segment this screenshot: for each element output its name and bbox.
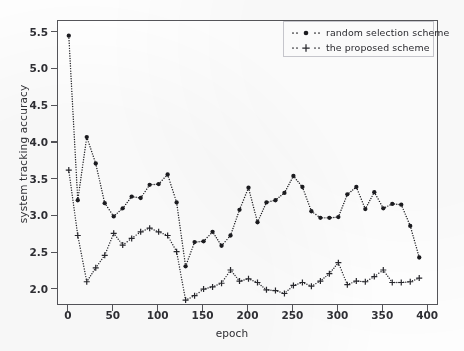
line-dot	[330, 271, 331, 272]
line-dot	[191, 249, 192, 250]
line-dot	[225, 276, 226, 277]
line-dot	[345, 279, 346, 280]
data-point-marker	[183, 297, 189, 303]
data-point-marker	[372, 190, 376, 194]
data-point-marker	[183, 264, 187, 268]
line-dot	[341, 269, 342, 270]
line-dot	[79, 184, 80, 185]
line-dot	[367, 204, 368, 205]
line-dot	[93, 158, 94, 159]
line-dot	[73, 121, 74, 122]
line-dot	[169, 181, 170, 182]
line-dot	[181, 240, 182, 241]
line-dot	[217, 239, 218, 240]
line-dot	[396, 282, 397, 283]
line-dot	[306, 198, 307, 199]
data-point-marker	[66, 167, 72, 173]
line-dot	[153, 229, 154, 230]
line-dot	[414, 240, 415, 241]
line-dot	[70, 187, 71, 188]
line-dot	[236, 277, 237, 278]
line-dot	[306, 284, 307, 285]
line-dot	[71, 192, 72, 193]
legend-label: random selection scheme	[323, 27, 449, 38]
line-dot	[226, 239, 227, 240]
data-point-marker	[416, 275, 422, 281]
line-dot	[74, 146, 75, 147]
data-point-marker	[327, 216, 331, 220]
line-dot	[287, 186, 288, 187]
line-dot	[262, 211, 263, 212]
data-point-marker	[345, 192, 349, 196]
line-dot	[178, 264, 179, 265]
data-point-marker	[165, 232, 171, 238]
data-point-marker	[156, 182, 160, 186]
line-dot	[415, 245, 416, 246]
line-dot	[297, 181, 298, 182]
line-dot	[71, 83, 72, 84]
line-dot	[71, 96, 72, 97]
line-dot	[208, 235, 209, 236]
line-dot	[287, 290, 288, 291]
line-dot	[129, 239, 130, 240]
line-dot	[262, 286, 263, 287]
data-point-marker	[130, 194, 134, 198]
line-dot	[77, 192, 78, 193]
line-dot	[75, 159, 76, 160]
line-dot	[305, 196, 306, 197]
line-dot	[182, 284, 183, 285]
line-dot	[85, 146, 86, 147]
y-tick-label: 5.5	[0, 26, 57, 38]
line-dot	[82, 258, 83, 259]
line-dot	[206, 237, 207, 238]
line-dot	[100, 185, 101, 186]
line-dot	[92, 271, 93, 272]
line-dot	[188, 256, 189, 257]
line-dot	[327, 274, 328, 275]
line-dot	[313, 284, 314, 285]
line-dot	[80, 248, 81, 249]
line-dot	[70, 75, 71, 76]
line-dot	[144, 229, 145, 230]
data-point-marker	[237, 208, 241, 212]
line-dot	[169, 179, 170, 180]
y-tick-mark	[51, 178, 57, 179]
line-dot	[171, 186, 172, 187]
line-dot	[82, 164, 83, 165]
line-dot	[416, 247, 417, 248]
line-dot	[85, 144, 86, 145]
line-dot	[74, 136, 75, 137]
line-dot	[109, 242, 110, 243]
y-tick-label: 2.0	[0, 283, 57, 295]
plot-area	[57, 20, 438, 305]
x-tick-mark	[292, 305, 293, 311]
line-dot	[336, 264, 337, 265]
line-dot	[84, 152, 85, 153]
line-dot	[70, 78, 71, 79]
line-dot	[360, 281, 361, 282]
line-dot	[111, 237, 112, 238]
line-dot	[261, 213, 262, 214]
line-dot	[231, 271, 232, 272]
line-dot	[179, 225, 180, 226]
line-dot	[303, 191, 304, 192]
line-dot	[69, 55, 70, 56]
line-dot	[97, 173, 98, 174]
line-dot	[76, 172, 77, 173]
line-dot	[371, 277, 372, 278]
line-dot	[109, 209, 110, 210]
line-dot	[340, 267, 341, 268]
line-dot	[74, 210, 75, 211]
line-dot	[201, 290, 202, 291]
line-dot	[100, 183, 101, 184]
x-tick-mark	[202, 305, 203, 311]
line-dot	[259, 217, 260, 218]
line-dot	[177, 212, 178, 213]
line-dot	[417, 252, 418, 253]
line-dot	[76, 174, 77, 175]
line-dot	[78, 240, 79, 241]
line-dot	[72, 116, 73, 117]
line-dot	[358, 191, 359, 192]
line-dot	[81, 253, 82, 254]
line-dot	[377, 198, 378, 199]
